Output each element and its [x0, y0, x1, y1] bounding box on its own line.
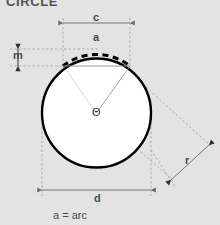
- extension-line-radius-lower: [151, 150, 176, 188]
- dimension-line-radius: [171, 145, 209, 180]
- circle-diagram: CIRCLE: [0, 0, 220, 225]
- diagram-caption: a = arc: [53, 209, 87, 221]
- diagram-canvas: [0, 0, 220, 225]
